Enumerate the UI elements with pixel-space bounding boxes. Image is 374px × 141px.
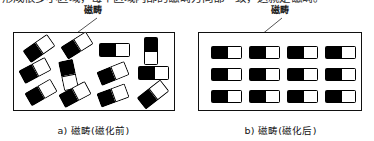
magnetic-domain [325,90,356,103]
domain-south-half [341,46,357,59]
domain-south-half [265,68,281,81]
magnetic-domain [96,83,129,107]
domain-south-half [154,66,170,80]
magnetic-domain [137,79,170,109]
magnetic-domain-figure: 磁畴 a) 磁畴(磁化前) 磁畴 b) 磁畴(磁化后) [0,0,374,141]
domain-south-half [265,90,281,103]
domain-north-half [287,46,303,59]
domain-south-half [227,46,243,59]
magnetic-domain [99,43,130,57]
magnetic-domain [325,46,356,59]
domain-south-half [303,68,319,81]
domain-north-half [249,90,265,103]
callout-label-domain-before: 磁畴 [0,5,187,16]
panel-after-magnetization: 磁畴 b) 磁畴(磁化后) [187,0,374,141]
domain-north-half [325,46,341,59]
magnetic-domain [249,46,280,59]
magnetic-domain [249,68,280,81]
domain-south-half [341,90,357,103]
domain-north-half [144,37,158,51]
domain-north-half [211,46,227,59]
domain-south-half [227,68,243,81]
domain-south-half [341,68,357,81]
domain-north-half [211,68,227,81]
caption-after: b) 磁畴(磁化后) [187,125,374,137]
domain-north-half [287,68,303,81]
domain-south-half [115,43,131,57]
domain-south-half [303,90,319,103]
magnetic-domain [211,68,242,81]
magnetic-domain [287,46,318,59]
magnetic-domain [96,61,129,86]
domain-north-half [325,68,341,81]
specimen-box-after [198,32,362,111]
domain-north-half [287,90,303,103]
domain-north-half [211,90,227,103]
magnetic-domain [138,66,169,80]
magnetic-domain [249,90,280,103]
callout-label-domain-after: 磁畴 [187,5,374,16]
magnetic-domain [287,90,318,103]
domain-north-half [249,68,265,81]
domain-north-half [99,43,115,57]
domain-south-half [303,46,319,59]
magnetic-domain [24,79,57,107]
domain-south-half [227,90,243,103]
magnetic-domain [287,68,318,81]
magnetic-domain [211,46,242,59]
domain-south-half [265,46,281,59]
magnetic-domain [144,37,158,65]
domain-north-half [249,46,265,59]
domain-south-half [144,51,158,65]
magnetic-domain [60,31,93,60]
caption-before: a) 磁畴(磁化前) [0,125,187,137]
magnetic-domain [211,90,242,103]
panel-before-magnetization: 磁畴 a) 磁畴(磁化前) [0,0,187,141]
specimen-box-before [13,32,175,111]
domain-north-half [325,90,341,103]
magnetic-domain [325,68,356,81]
domain-north-half [138,66,154,80]
